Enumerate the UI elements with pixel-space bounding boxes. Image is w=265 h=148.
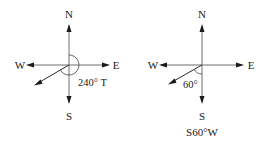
bearing-diagrams: N S E W 240° T N S E W 60° S60°W	[0, 0, 265, 148]
east-arrow-icon	[236, 63, 244, 68]
east-arrow-icon	[102, 63, 110, 68]
south-arrow-icon	[67, 96, 72, 104]
true-bearing-diagram: N S E W 240° T	[15, 8, 120, 122]
west-arrow-icon	[26, 63, 34, 68]
angle-arc	[194, 70, 202, 75]
bearing-arrow-icon	[34, 80, 43, 86]
bearing-caption: S60°W	[186, 126, 219, 138]
east-label: E	[113, 59, 120, 71]
north-label: N	[198, 8, 206, 20]
quadrant-bearing-diagram: N S E W 60° S60°W	[148, 8, 255, 138]
south-label: S	[199, 110, 205, 122]
west-arrow-icon	[159, 63, 167, 68]
west-label: W	[148, 59, 159, 71]
bearing-arrow-icon	[168, 79, 177, 85]
east-label: E	[248, 59, 255, 71]
west-label: W	[15, 59, 26, 71]
south-arrow-icon	[200, 96, 205, 104]
angle-label: 60°	[183, 79, 198, 90]
north-arrow-icon	[200, 24, 205, 32]
north-label: N	[65, 8, 73, 20]
south-label: S	[66, 110, 72, 122]
north-arrow-icon	[67, 24, 72, 32]
angle-label: 240° T	[78, 77, 107, 88]
